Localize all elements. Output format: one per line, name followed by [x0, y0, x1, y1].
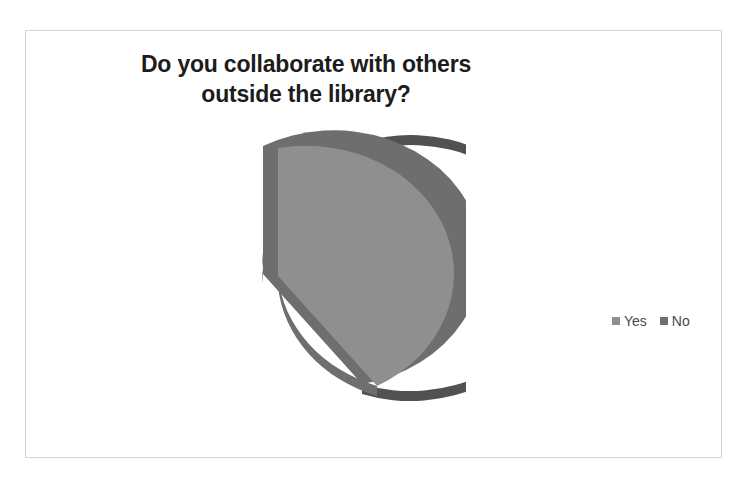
legend-item-yes[interactable]: Yes [612, 314, 647, 328]
chart-title: Do you collaborate with others outside t… [66, 49, 546, 110]
legend-swatch-yes [612, 317, 620, 325]
chart-title-line-2: outside the library? [66, 79, 546, 109]
chart-legend: Yes No [612, 314, 690, 328]
chart-frame: Do you collaborate with others outside t… [25, 30, 722, 458]
legend-item-no[interactable]: No [660, 314, 690, 328]
pie-chart-svg [121, 116, 466, 406]
pie-chart-plot-area [121, 116, 466, 406]
legend-label-yes: Yes [624, 314, 647, 328]
legend-label-no: No [672, 314, 690, 328]
legend-swatch-no [660, 317, 668, 325]
chart-title-line-1: Do you collaborate with others [66, 49, 546, 79]
